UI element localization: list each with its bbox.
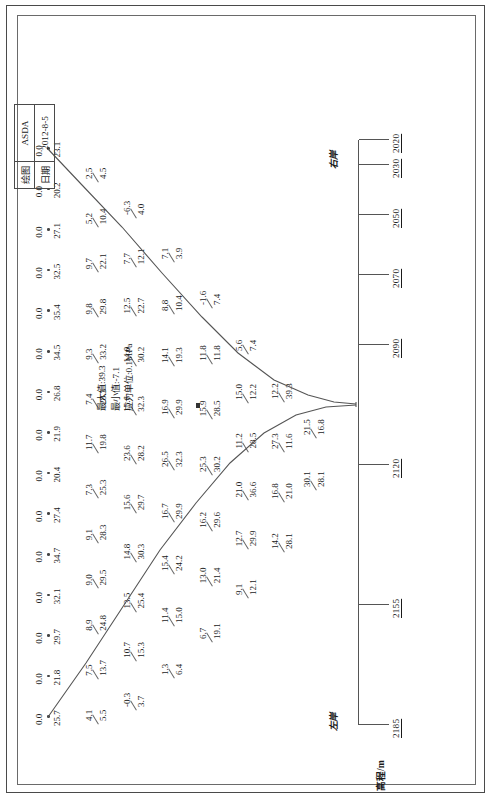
elevation-tick-2030: [359, 164, 389, 165]
surface-node-dot: [47, 715, 50, 718]
surface-zero-value: 0.0: [34, 551, 44, 562]
surface-node-dot: [47, 228, 50, 231]
stress-value-lower-2050: 28.5: [248, 433, 258, 449]
surface-zero-value: 0.0: [34, 389, 44, 400]
elevation-label-2020: 2020: [391, 134, 401, 153]
stress-value-upper-2090: 14.1: [160, 347, 170, 363]
surface-node-dot: [47, 634, 50, 637]
elevation-tick-2050: [359, 214, 389, 215]
elevation-label-2120: 2120: [391, 459, 401, 478]
crest-value: 32.1: [52, 588, 62, 604]
title-block-draw-value: ASDA: [15, 105, 35, 162]
elevation-label-2050: 2050: [391, 209, 401, 228]
crest-value: 21.9: [52, 426, 62, 442]
crest-value: 27.1: [52, 223, 62, 239]
stress-value-lower-2090: 19.3: [174, 347, 184, 363]
stress-value-lower-2120: 29.7: [136, 494, 146, 510]
stress-value-lower-2155: 22.1: [98, 254, 108, 270]
surface-zero-value: 0.0: [34, 592, 44, 603]
title-block-date-value: 2012-8-5: [35, 105, 55, 162]
crest-value: 26.8: [52, 385, 62, 401]
stress-value-lower-2050: 12.1: [248, 579, 258, 595]
stress-value-lower-2155: 28.3: [98, 525, 108, 541]
surface-zero-value: 0.0: [34, 308, 44, 319]
stress-value-upper-2020: 21.5: [302, 419, 312, 435]
notes-block: 最大值:39.3 最小值:-7.1 应力单位:0.1MPa: [96, 344, 137, 411]
elevation-label-2030: 2030: [391, 159, 401, 178]
stress-value-lower-2120: 25.4: [136, 593, 146, 609]
surface-zero-value: 0.0: [34, 673, 44, 684]
stress-value-lower-2070: 19.1: [212, 623, 222, 639]
surface-zero-value: 0.0: [34, 267, 44, 278]
stress-value-lower-2155: 5.5: [98, 710, 108, 721]
stress-value-lower-2050: 36.6: [248, 482, 258, 498]
stress-value-lower-2090: 29.9: [174, 503, 184, 519]
surface-node-dot: [47, 350, 50, 353]
title-block: 绘图 ASDA 日期 2012-8-5: [14, 104, 55, 189]
crest-value: 34.7: [52, 548, 62, 564]
axis-title-elevation: 高程/m: [373, 760, 387, 791]
note-min-value: 最小值:-7.1: [110, 344, 124, 411]
surface-node-dot: [47, 675, 50, 678]
stress-value-lower-2090: 32.3: [174, 451, 184, 467]
note-stress-unit: 应力单位:0.1MPa: [123, 344, 137, 411]
stress-value-lower-2090: 29.9: [174, 399, 184, 415]
stress-value-lower-2050: 12.2: [248, 384, 258, 400]
elevation-label-2070: 2070: [391, 269, 401, 288]
title-block-row-date: 日期 2012-8-5: [35, 105, 55, 189]
elevation-label-2090: 2090: [391, 339, 401, 358]
stress-value-upper-2090: 15.4: [160, 555, 170, 571]
stress-value-lower-2070: 21.4: [212, 568, 222, 584]
stress-value-upper-2120: 13.5: [122, 593, 132, 609]
stress-value-upper-2070: 11.8: [198, 345, 208, 360]
surface-node-dot: [47, 391, 50, 394]
crest-value: 21.8: [52, 670, 62, 686]
stress-value-lower-2070: 7.4: [212, 294, 222, 305]
surface-node-dot: [47, 472, 50, 475]
stress-value-lower-2120: 3.7: [136, 696, 146, 707]
surface-zero-value: 0.0: [34, 430, 44, 441]
stress-value-upper-2120: 10.7: [122, 642, 132, 658]
stress-value-lower-2090: 24.2: [174, 555, 184, 571]
stress-value-lower-2020: 28.1: [316, 471, 326, 487]
crest-value: 27.4: [52, 507, 62, 523]
stress-value-lower-2090: 10.4: [174, 295, 184, 311]
stress-value-lower-2155: 13.7: [98, 660, 108, 676]
stress-value-upper-2020: 30.1: [302, 471, 312, 487]
elevation-label-2185: 2185: [391, 719, 401, 738]
stress-value-lower-2120: 30.2: [136, 347, 146, 363]
stress-distribution-plot: 高程/m 左岸 右岸 21852155212020902070205020302…: [26, 105, 426, 725]
stress-value-upper-2090: 16.9: [160, 399, 170, 415]
surface-node-dot: [47, 512, 50, 515]
crest-value: 32.5: [52, 264, 62, 280]
elevation-tick-2020: [359, 139, 389, 140]
stress-value-lower-2090: 6.4: [174, 664, 184, 675]
surface-node-dot: [47, 269, 50, 272]
stress-value-upper-2070: 16.2: [198, 512, 208, 528]
stress-value-lower-2155: 29.5: [98, 570, 108, 586]
stress-value-lower-2155: 4.5: [98, 168, 108, 179]
stress-value-lower-2120: 30.3: [136, 544, 146, 560]
stress-value-upper-2030: 12.2: [270, 383, 280, 399]
stress-value-lower-2070: 29.6: [212, 512, 222, 528]
surface-zero-value: 0.0: [34, 470, 44, 481]
stress-value-lower-2120: 28.2: [136, 445, 146, 461]
stress-value-lower-2155: 29.8: [98, 299, 108, 315]
elevation-tick-2155: [359, 604, 389, 605]
surface-node-dot: [47, 553, 50, 556]
stress-value-lower-2030: 28.1: [284, 533, 294, 549]
elevation-axis-line: [358, 140, 359, 725]
stress-value-lower-2155: 19.8: [98, 434, 108, 450]
elevation-tick-2120: [359, 464, 389, 465]
elevation-tick-2090: [359, 344, 389, 345]
stress-value-upper-2030: 14.2: [270, 533, 280, 549]
stress-value-upper-2090: 16.7: [160, 503, 170, 519]
stress-value-lower-2090: 3.9: [174, 248, 184, 259]
crest-value: 20.4: [52, 467, 62, 483]
stress-value-lower-2070: 11.8: [212, 345, 222, 360]
stress-value-upper-2050: 15.0: [234, 384, 244, 400]
stress-value-lower-2120: 22.7: [136, 298, 146, 314]
stress-value-lower-2050: 7.4: [248, 340, 258, 351]
note-max-value: 最大值:39.3: [96, 344, 110, 411]
surface-zero-value: 0.0: [34, 511, 44, 522]
